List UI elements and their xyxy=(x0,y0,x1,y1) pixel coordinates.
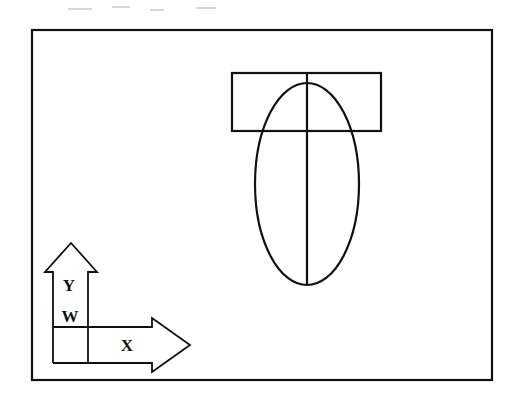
scan-speck xyxy=(150,9,164,11)
canvas-background xyxy=(0,0,515,410)
axis-label-y: Y xyxy=(63,276,75,295)
technical-drawing-canvas: Y W X xyxy=(0,0,515,410)
scan-speck xyxy=(112,6,130,8)
scan-speck xyxy=(68,8,92,10)
scan-speck xyxy=(196,7,216,9)
figure-root: Y W X xyxy=(0,0,515,410)
axis-label-x: X xyxy=(121,336,134,355)
axis-label-w: W xyxy=(62,307,79,326)
